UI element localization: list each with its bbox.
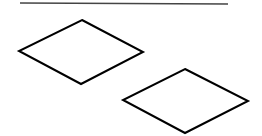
diagram-canvas: [0, 0, 262, 136]
rhombus-upper-left: [19, 20, 143, 84]
horizontal-line: [20, 3, 228, 4]
rhombus-lower-right: [123, 69, 248, 133]
